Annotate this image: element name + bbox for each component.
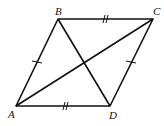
diagonal-bd <box>58 19 110 106</box>
label-b: B <box>55 5 62 17</box>
rhombus-diagram: A B C D <box>0 0 164 126</box>
label-a: A <box>7 108 15 120</box>
label-c: C <box>153 5 161 17</box>
label-d: D <box>108 109 117 121</box>
